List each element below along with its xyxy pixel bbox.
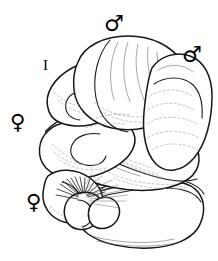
shell-right-oval <box>144 54 213 170</box>
shell-inner-small-valve-2 <box>88 197 119 228</box>
male-symbol-icon-right: ♂ <box>182 44 202 66</box>
mussel-clump-figure: ♂ ♂ ♀ ♀ I <box>0 0 218 261</box>
mussel-clump-drawing <box>0 0 218 261</box>
specimen-roman-label: I <box>43 58 48 73</box>
male-symbol-icon-top: ♂ <box>104 13 124 35</box>
female-symbol-icon-left: ♀ <box>10 112 25 133</box>
female-symbol-icon-bottom: ♀ <box>26 192 41 213</box>
